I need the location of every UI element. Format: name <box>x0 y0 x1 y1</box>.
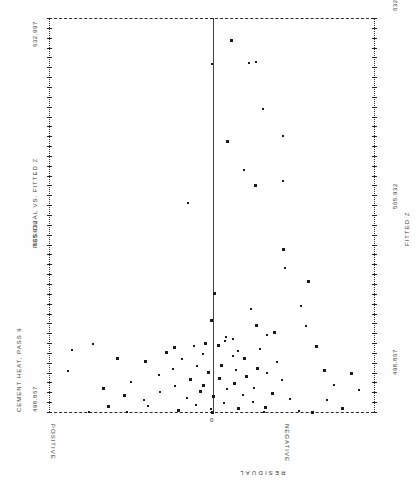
data-point <box>88 411 90 413</box>
data-point <box>116 357 119 360</box>
data-point <box>333 384 335 386</box>
axis-tick <box>47 245 52 246</box>
data-point <box>213 292 216 295</box>
data-point <box>232 355 234 357</box>
data-point <box>123 394 126 397</box>
y-axis-max-label-left: 632.997 <box>32 21 38 47</box>
axis-tick <box>47 235 52 236</box>
data-point <box>218 377 221 380</box>
data-point <box>224 340 226 342</box>
data-point <box>174 385 176 387</box>
axis-tick <box>47 67 52 68</box>
chart-subtitle: CEMENT HEAT, PASS 9 <box>16 327 22 412</box>
data-point <box>232 338 234 340</box>
data-point <box>165 351 168 354</box>
axis-tick <box>47 28 52 29</box>
data-point <box>67 370 69 372</box>
data-point <box>233 382 236 385</box>
plot-top-border <box>49 18 374 19</box>
axis-tick <box>372 156 377 157</box>
axis-tick <box>372 117 377 118</box>
axis-tick <box>372 67 377 68</box>
axis-tick <box>47 314 52 315</box>
axis-tick <box>372 176 377 177</box>
data-point <box>266 334 268 336</box>
data-point <box>263 411 265 413</box>
data-point <box>256 367 259 370</box>
axis-tick <box>47 333 52 334</box>
axis-tick <box>372 57 377 58</box>
axis-tick <box>47 38 52 39</box>
axis-tick <box>47 185 52 186</box>
axis-tick <box>47 402 52 403</box>
data-point <box>305 325 307 327</box>
data-point <box>326 399 328 401</box>
axis-tick <box>47 254 52 255</box>
data-point <box>235 369 237 371</box>
data-point <box>276 361 278 363</box>
axis-tick <box>372 373 377 374</box>
x-axis-positive-label: POSITIVE <box>50 424 56 460</box>
data-point <box>350 372 353 375</box>
axis-tick <box>372 195 377 196</box>
data-point <box>226 140 229 143</box>
axis-tick <box>372 353 377 354</box>
axis-tick <box>372 146 377 147</box>
zero-reference-line <box>213 18 214 412</box>
data-point <box>204 342 207 345</box>
axis-tick <box>47 323 52 324</box>
data-point <box>189 378 192 381</box>
axis-tick <box>47 373 52 374</box>
axis-tick <box>372 77 377 78</box>
data-point <box>237 350 239 352</box>
data-point <box>107 405 110 408</box>
axis-tick <box>372 205 377 206</box>
data-point <box>253 387 255 389</box>
axis-tick <box>372 126 377 127</box>
data-point <box>177 409 180 412</box>
y-axis-max-label-right: 632.997 <box>392 0 398 11</box>
axis-tick <box>47 274 52 275</box>
data-point <box>92 343 94 345</box>
axis-tick <box>372 382 377 383</box>
axis-tick <box>47 126 52 127</box>
data-point <box>358 389 360 391</box>
axis-tick <box>47 136 52 137</box>
axis-tick <box>372 284 377 285</box>
axis-tick <box>47 382 52 383</box>
data-point <box>71 349 73 351</box>
data-point <box>243 357 246 360</box>
data-point <box>144 360 147 363</box>
data-point <box>282 180 284 182</box>
axis-tick <box>372 274 377 275</box>
data-point <box>186 397 188 399</box>
axis-tick <box>47 117 52 118</box>
axis-tick <box>372 294 377 295</box>
data-point <box>300 305 302 307</box>
data-point <box>173 346 176 349</box>
axis-tick <box>372 314 377 315</box>
data-point <box>262 108 264 110</box>
data-point <box>284 267 286 269</box>
axis-tick <box>372 333 377 334</box>
axis-tick <box>47 304 52 305</box>
data-point <box>248 62 250 64</box>
data-point <box>207 371 210 374</box>
data-point <box>259 348 261 350</box>
data-point <box>271 392 274 395</box>
data-point <box>172 368 174 370</box>
axis-tick <box>372 363 377 364</box>
axis-tick <box>372 343 377 344</box>
axis-tick <box>47 57 52 58</box>
data-point <box>255 61 257 63</box>
chart-canvas: RESIDUAL VS. FITTED Z CEMENT HEAT, PASS … <box>0 0 416 496</box>
axis-tick <box>47 412 52 413</box>
data-point <box>273 331 276 334</box>
axis-tick <box>47 156 52 157</box>
data-point <box>289 398 291 400</box>
axis-tick <box>47 363 52 364</box>
axis-tick <box>47 205 52 206</box>
data-point <box>158 374 160 376</box>
data-point <box>254 184 257 187</box>
data-point <box>187 202 189 204</box>
